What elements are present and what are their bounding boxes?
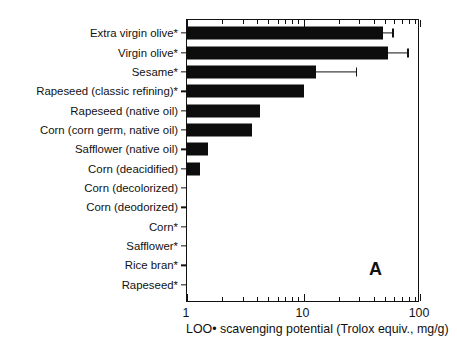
x-axis-major-tick <box>187 20 188 27</box>
x-axis-minor-tick <box>402 297 403 301</box>
y-axis-category-label: Rapeseed (native oil) <box>70 105 178 117</box>
x-axis-minor-tick <box>359 20 360 24</box>
bar <box>187 104 260 117</box>
x-axis-minor-tick <box>285 20 286 24</box>
x-axis-minor-tick <box>339 297 340 301</box>
x-axis-minor-tick <box>257 20 258 24</box>
x-axis-minor-tick <box>298 297 299 301</box>
x-axis-major-tick <box>420 20 421 27</box>
y-axis-category-label: Corn (corn germ, native oil) <box>40 124 178 136</box>
y-axis-tick <box>181 265 187 266</box>
x-axis-major-tick <box>187 294 188 301</box>
x-tick-label: 100 <box>409 306 430 320</box>
bar-row: Corn (deodorized) <box>187 198 418 217</box>
y-axis-category-label: Corn (decolorized) <box>84 182 178 194</box>
y-axis-tick <box>181 245 187 246</box>
bar-row: Virgin olive* <box>187 43 418 62</box>
bar <box>187 143 208 156</box>
bar-row: Safflower* <box>187 236 418 255</box>
x-axis-minor-tick <box>415 297 416 301</box>
x-tick-label: 1 <box>183 306 190 320</box>
y-axis-tick <box>181 226 187 227</box>
bar <box>187 85 304 98</box>
bar <box>187 162 200 175</box>
x-axis-minor-tick <box>385 20 386 24</box>
bar <box>187 65 316 78</box>
bar-row: Rapeseed* <box>187 275 418 294</box>
figure-panel-a: Extra virgin olive*Virgin olive*Sesame*R… <box>0 0 457 355</box>
y-axis-category-label: Safflower* <box>126 240 178 252</box>
y-axis-category-label: Extra virgin olive* <box>90 27 178 39</box>
bar-row: Rice bran* <box>187 256 418 275</box>
x-axis-minor-tick <box>409 297 410 301</box>
y-axis-category-label: Rice bran* <box>125 259 178 271</box>
bar-row: Rapeseed (classic refining)* <box>187 82 418 101</box>
x-axis-major-tick <box>304 20 305 27</box>
x-axis-minor-tick <box>243 20 244 24</box>
bar <box>187 46 388 59</box>
bar-row: Corn (decolorized) <box>187 178 418 197</box>
y-axis-tick <box>181 207 187 208</box>
y-axis-category-label: Corn (deodorized) <box>86 201 178 213</box>
x-axis-minor-tick <box>394 20 395 24</box>
x-axis-minor-tick <box>278 20 279 24</box>
error-bar <box>383 33 393 34</box>
x-axis-major-tick <box>420 294 421 301</box>
y-axis-category-label: Rapeseed (classic refining)* <box>36 85 178 97</box>
x-axis-major-tick <box>304 294 305 301</box>
error-bar-cap <box>392 29 393 38</box>
x-axis-minor-tick <box>257 297 258 301</box>
x-axis-minor-tick <box>359 297 360 301</box>
y-axis-category-label: Virgin olive* <box>118 47 178 59</box>
y-axis-category-label: Safflower (native oil) <box>75 143 178 155</box>
x-axis-minor-tick <box>285 297 286 301</box>
bar-row: Extra virgin olive* <box>187 23 418 42</box>
x-axis-minor-tick <box>374 20 375 24</box>
error-bar <box>316 71 356 72</box>
y-axis-category-label: Sesame* <box>132 66 178 78</box>
plot-area: Extra virgin olive*Virgin olive*Sesame*R… <box>186 19 419 302</box>
x-axis-minor-tick <box>292 20 293 24</box>
y-axis-tick <box>181 187 187 188</box>
x-axis-minor-tick <box>385 297 386 301</box>
error-bar-cap <box>356 67 357 76</box>
x-axis-minor-tick <box>292 297 293 301</box>
error-bar <box>388 52 408 53</box>
bar <box>187 27 383 40</box>
x-axis-minor-tick <box>394 297 395 301</box>
x-axis-minor-tick <box>415 20 416 24</box>
bar-row: Corn* <box>187 217 418 236</box>
bar-row: Corn (deacidified) <box>187 159 418 178</box>
x-axis-minor-tick <box>222 20 223 24</box>
x-axis-minor-tick <box>298 20 299 24</box>
x-axis-minor-tick <box>268 20 269 24</box>
x-axis-minor-tick <box>278 297 279 301</box>
x-axis-minor-tick <box>374 297 375 301</box>
y-axis-tick <box>181 284 187 285</box>
x-axis-minor-tick <box>268 297 269 301</box>
x-tick-label: 10 <box>296 306 310 320</box>
y-axis-category-label: Corn* <box>149 221 178 233</box>
error-bar-cap <box>407 48 408 57</box>
bar <box>187 123 252 136</box>
bar-row: Corn (corn germ, native oil) <box>187 120 418 139</box>
bar-row: Sesame* <box>187 62 418 81</box>
x-axis-minor-tick <box>402 20 403 24</box>
panel-label-a: A <box>369 259 382 280</box>
y-axis-category-label: Corn (deacidified) <box>88 163 178 175</box>
y-axis-category-label: Rapeseed* <box>122 279 178 291</box>
x-axis-minor-tick <box>243 297 244 301</box>
x-axis-minor-tick <box>409 20 410 24</box>
bar-row: Safflower (native oil) <box>187 140 418 159</box>
x-axis-minor-tick <box>222 297 223 301</box>
x-axis-minor-tick <box>339 20 340 24</box>
x-axis-title: LOO• scavenging potential (Trolox equiv.… <box>186 322 419 336</box>
bar-row: Rapeseed (native oil) <box>187 101 418 120</box>
